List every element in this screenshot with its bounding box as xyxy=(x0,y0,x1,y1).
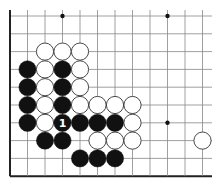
black-stone xyxy=(71,150,88,167)
black-stone xyxy=(71,114,88,131)
star-point-icon xyxy=(165,14,169,18)
black-stone xyxy=(36,132,53,149)
white-stone xyxy=(89,132,106,149)
white-stone xyxy=(106,132,123,149)
white-stone xyxy=(194,132,211,149)
star-point-icon xyxy=(165,121,169,125)
go-board: 1 xyxy=(0,0,221,188)
white-stone xyxy=(106,96,123,113)
white-stone xyxy=(36,61,53,78)
white-stone xyxy=(89,96,106,113)
white-stone xyxy=(36,114,53,131)
black-stone xyxy=(89,114,106,131)
black-stone xyxy=(54,132,71,149)
black-stone xyxy=(106,150,123,167)
white-stone xyxy=(36,79,53,96)
white-stone xyxy=(36,96,53,113)
black-stone xyxy=(89,150,106,167)
white-stone xyxy=(124,96,141,113)
black-stone xyxy=(19,79,36,96)
white-stone xyxy=(71,96,88,113)
black-stone xyxy=(19,61,36,78)
move-number-label: 1 xyxy=(59,117,67,130)
black-stone xyxy=(106,114,123,131)
white-stone xyxy=(124,132,141,149)
black-stone xyxy=(19,96,36,113)
black-stone xyxy=(54,61,71,78)
white-stone xyxy=(36,43,53,60)
black-stone xyxy=(54,96,71,113)
white-stone xyxy=(71,43,88,60)
white-stone xyxy=(71,61,88,78)
black-stone xyxy=(19,114,36,131)
star-point-icon xyxy=(60,14,64,18)
black-stone xyxy=(54,79,71,96)
white-stone xyxy=(54,43,71,60)
white-stone xyxy=(124,114,141,131)
white-stone xyxy=(71,79,88,96)
